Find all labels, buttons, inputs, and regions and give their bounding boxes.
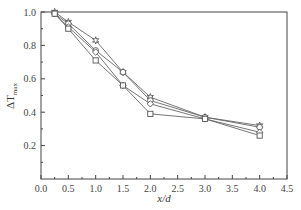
y-axis-label-main: ΔT — [4, 95, 16, 109]
x-tick-label: 1.5 — [117, 183, 130, 194]
series-star — [52, 8, 263, 129]
y-tick-label: 1.0 — [24, 7, 37, 18]
y-tick-label: 0.8 — [24, 40, 37, 51]
x-tick-label: 0.0 — [35, 183, 48, 194]
y-tick-label: 0.6 — [24, 73, 37, 84]
y-tick-label: 0.4 — [24, 107, 37, 118]
x-tick-label: 4.0 — [253, 183, 266, 194]
series-square — [52, 11, 262, 138]
y-axis-label-sub: max — [11, 83, 19, 96]
series-diamond — [51, 10, 262, 135]
plot-border — [41, 12, 287, 179]
x-tick-label: 2.5 — [171, 183, 184, 194]
series-circle — [52, 11, 263, 130]
x-tick-label: 0.5 — [62, 183, 75, 194]
x-axis-label: x/d — [156, 192, 171, 204]
x-tick-label: 4.5 — [281, 183, 294, 194]
y-tick-label: 0.2 — [24, 140, 37, 151]
y-axis-label: ΔTmax — [4, 83, 19, 109]
data-series — [51, 8, 262, 138]
line-chart: 0.00.51.01.52.02.53.03.54.04.50.20.40.60… — [0, 0, 301, 210]
x-tick-label: 3.0 — [199, 183, 212, 194]
plot-frame — [41, 12, 287, 179]
x-tick-label: 1.0 — [89, 183, 102, 194]
svg-text:ΔTmax: ΔTmax — [4, 83, 19, 109]
x-tick-label: 2.0 — [144, 183, 157, 194]
x-tick-label: 3.5 — [226, 183, 239, 194]
